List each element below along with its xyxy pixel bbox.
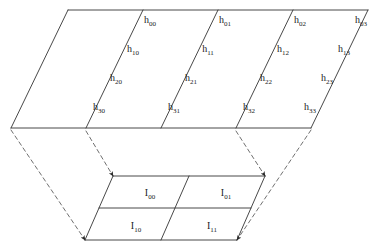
i-cell-i01: I01 [221, 187, 232, 201]
connector-right-outer [237, 130, 311, 240]
connector-arrows [11, 130, 311, 240]
h-plane-edge-left [11, 10, 68, 128]
h-cell-h21: h21 [185, 72, 198, 86]
h-cell-h23: h23 [321, 72, 334, 86]
connector-right-inner [236, 131, 265, 176]
h-cell-h33: h33 [304, 101, 317, 115]
h-cell-h01: h01 [219, 14, 232, 28]
i-cell-i11: I11 [207, 220, 218, 234]
connector-left-inner [86, 131, 113, 176]
h-cell-h20: h20 [110, 72, 123, 86]
h-cell-h32: h32 [243, 101, 256, 115]
diagram-canvas: h00h01h02h03h10h11h12h13h20h21h22h23h30h… [0, 0, 375, 247]
h-cell-h03: h03 [355, 14, 368, 28]
h-cell-h10: h10 [127, 43, 140, 57]
h-cell-h13: h13 [338, 43, 351, 57]
h-cell-h00: h00 [144, 14, 157, 28]
h-cell-h30: h30 [93, 101, 106, 115]
connector-left-outer [11, 130, 85, 240]
i-plane [85, 176, 265, 240]
i-cell-i00: I00 [145, 187, 156, 201]
h-cell-h11: h11 [202, 43, 214, 57]
diagram-svg: h00h01h02h03h10h11h12h13h20h21h22h23h30h… [0, 0, 375, 247]
h-cell-h12: h12 [277, 43, 290, 57]
h-cell-h22: h22 [260, 72, 273, 86]
h-cell-h31: h31 [168, 101, 181, 115]
i-cell-i10: I10 [131, 220, 142, 234]
h-plane-edge-right [311, 10, 368, 128]
h-cell-h02: h02 [294, 14, 307, 28]
